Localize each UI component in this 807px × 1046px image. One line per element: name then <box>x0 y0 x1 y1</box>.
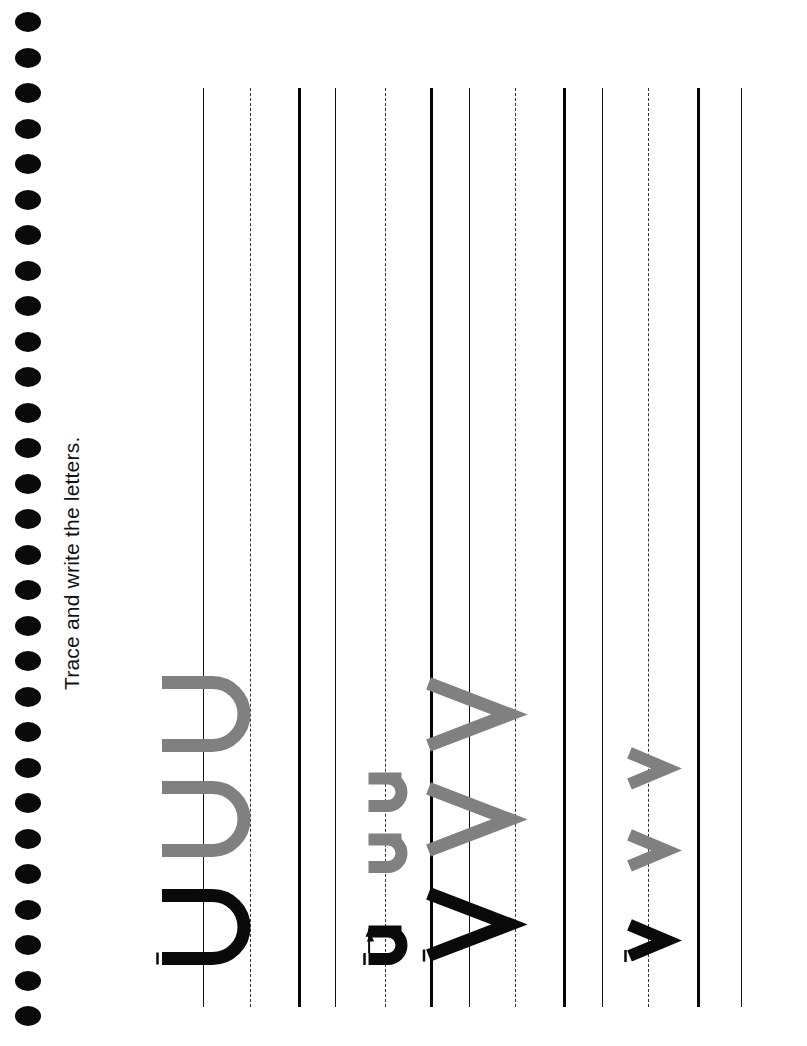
rule-top-line <box>203 88 204 1007</box>
binding-hole <box>15 651 41 671</box>
letter-stroke <box>630 753 667 784</box>
letter-stroke <box>369 839 402 867</box>
letter-v-trace <box>624 829 673 872</box>
binding-hole <box>15 722 41 742</box>
letter-stroke <box>162 896 244 959</box>
rule-top-line <box>469 88 470 1007</box>
binding-hole <box>15 225 41 245</box>
binding-hole <box>15 829 41 849</box>
rule-baseline <box>563 88 566 1007</box>
letter-stroke <box>429 788 510 850</box>
letter-V-trace <box>422 782 516 857</box>
rule-baseline <box>298 88 301 1007</box>
binding-hole <box>15 971 41 991</box>
rule-dashed-midline <box>515 88 516 1007</box>
binding-hole <box>15 190 41 210</box>
rule-baseline <box>430 88 433 1007</box>
binding-hole <box>15 12 41 32</box>
binding-hole <box>15 474 41 494</box>
letter-V-model <box>422 887 516 962</box>
binding-hole <box>15 367 41 387</box>
binding-hole <box>15 83 41 103</box>
letter-v-trace <box>624 747 673 790</box>
rule-baseline <box>697 88 700 1007</box>
rule-top-line <box>741 88 742 1007</box>
binding-hole <box>15 438 41 458</box>
binding-hole <box>15 403 41 423</box>
binding-hole <box>15 616 41 636</box>
letter-V-trace <box>422 677 516 752</box>
binding-hole <box>15 154 41 174</box>
binding-hole <box>15 935 41 955</box>
letter-u-trace <box>363 772 408 812</box>
binding-hole <box>15 864 41 884</box>
letter-U-trace <box>156 781 251 857</box>
binding-hole <box>15 261 41 281</box>
letter-stroke <box>429 683 510 745</box>
rule-dashed-midline <box>250 88 251 1007</box>
rule-top-line <box>335 88 336 1007</box>
instruction-text: Trace and write the letters. <box>58 360 86 690</box>
letter-stroke <box>630 835 667 866</box>
binding-hole <box>15 1006 41 1026</box>
binding-hole <box>15 793 41 813</box>
binding-hole <box>15 900 41 920</box>
letter-U-trace <box>156 676 251 752</box>
letter-stroke <box>369 778 402 806</box>
rule-top-line <box>602 88 603 1007</box>
binding-hole <box>15 332 41 352</box>
binding-hole <box>15 119 41 139</box>
ruled-line-band-set <box>130 88 807 1007</box>
worksheet-surface: Trace and write the letters. <box>130 0 807 1046</box>
letter-U-model <box>156 889 251 965</box>
binding-hole <box>15 545 41 565</box>
letter-stroke <box>162 683 244 746</box>
letter-u-model <box>363 925 408 965</box>
spiral-binding <box>0 0 60 1046</box>
binding-hole <box>15 48 41 68</box>
binding-hole <box>15 509 41 529</box>
binding-hole <box>15 580 41 600</box>
letter-stroke <box>162 788 244 851</box>
letter-u-trace <box>363 833 408 873</box>
binding-hole <box>15 687 41 707</box>
binding-hole <box>15 758 41 778</box>
binding-hole <box>15 296 41 316</box>
letter-v-model <box>624 919 673 962</box>
